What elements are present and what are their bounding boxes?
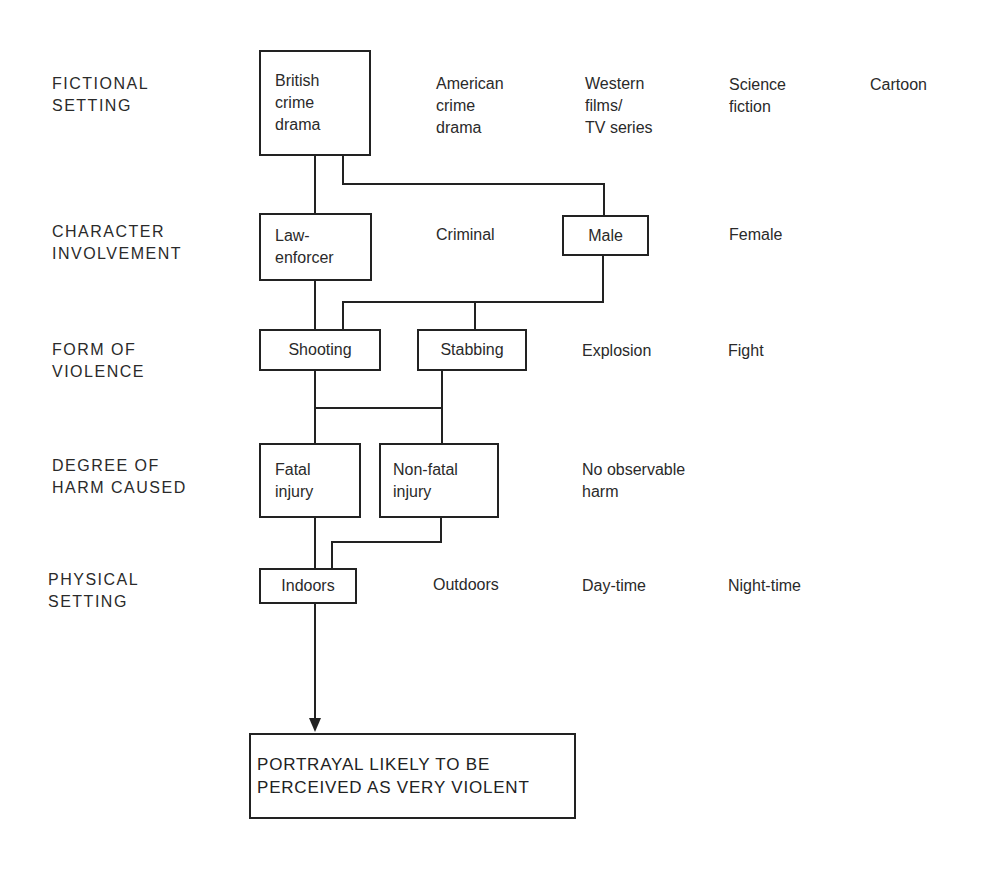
arrow-head-icon: [309, 718, 321, 732]
box-non-fatal-injury: Non-fatal injury: [379, 443, 499, 518]
option-science-fiction: Science fiction: [729, 74, 786, 118]
box-indoors: Indoors: [259, 568, 357, 604]
box-british-crime-drama: British crime drama: [259, 50, 371, 156]
outcome-box: PORTRAYAL LIKELY TO BE PERCEIVED AS VERY…: [249, 733, 576, 819]
option-explosion: Explosion: [582, 340, 651, 362]
option-day-time: Day-time: [582, 575, 646, 597]
box-shooting: Shooting: [259, 329, 381, 371]
row-label-fictional-setting: FICTIONAL SETTING: [52, 73, 149, 117]
row-label-character-involvement: CHARACTER INVOLVEMENT: [52, 221, 182, 265]
option-western: Western films/ TV series: [585, 73, 653, 139]
option-outdoors: Outdoors: [433, 574, 499, 596]
box-stabbing: Stabbing: [417, 329, 527, 371]
option-american-crime-drama: American crime drama: [436, 73, 504, 139]
row-label-physical-setting: PHYSICAL SETTING: [48, 569, 139, 613]
box-male: Male: [562, 215, 649, 256]
option-night-time: Night-time: [728, 575, 801, 597]
option-no-observable-harm: No observable harm: [582, 459, 685, 503]
box-fatal-injury: Fatal injury: [259, 443, 361, 518]
option-fight: Fight: [728, 340, 764, 362]
option-female: Female: [729, 224, 782, 246]
option-criminal: Criminal: [436, 224, 495, 246]
box-law-enforcer: Law- enforcer: [259, 213, 372, 281]
option-cartoon: Cartoon: [870, 74, 927, 96]
row-label-form-of-violence: FORM OF VIOLENCE: [52, 339, 145, 383]
row-label-degree-of-harm: DEGREE OF HARM CAUSED: [52, 455, 187, 499]
